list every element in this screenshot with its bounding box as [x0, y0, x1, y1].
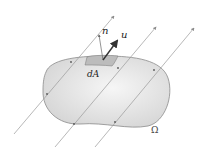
region-omega — [43, 56, 170, 127]
normal-label: n — [102, 25, 108, 36]
velocity-label: u — [121, 29, 127, 40]
surface-element-dA — [85, 55, 118, 66]
region-label: Ω — [151, 125, 158, 135]
element-label: dA — [87, 69, 100, 79]
flux-diagram: n u dA Ω — [0, 0, 208, 153]
